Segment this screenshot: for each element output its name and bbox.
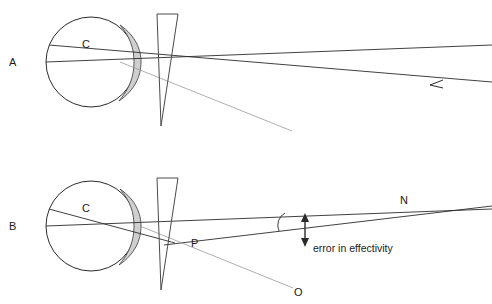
panel-a: A C (9, 14, 492, 131)
cornea-b (119, 189, 141, 265)
optical-axis-a (46, 45, 492, 62)
oblique-ray-b (49, 209, 175, 243)
panel-label-b: B (9, 220, 16, 232)
point-label-c-a: C (82, 38, 90, 50)
point-label-n: N (400, 194, 408, 206)
angle-arc-b (278, 213, 285, 231)
prism-a (157, 14, 178, 126)
refracted-ray-a (120, 62, 292, 131)
optics-diagram: A C error in effectivity B (0, 0, 492, 304)
error-in-effectivity-label: error in effectivity (313, 242, 393, 254)
point-label-p: P (191, 237, 198, 249)
panel-b: error in effectivity B C P N O (9, 178, 492, 298)
point-label-o: O (294, 286, 303, 298)
eye-globe-a (46, 17, 136, 107)
eye-globe-b (46, 181, 136, 271)
panel-label-a: A (9, 56, 17, 68)
oblique-ray-a (49, 45, 492, 82)
ray-p-to-n-b (164, 206, 492, 245)
point-label-c-b: C (82, 202, 90, 214)
incoming-ray-arrowhead-a (430, 80, 443, 88)
error-in-effectivity-arrow (301, 213, 309, 247)
optical-axis-b (46, 209, 492, 226)
